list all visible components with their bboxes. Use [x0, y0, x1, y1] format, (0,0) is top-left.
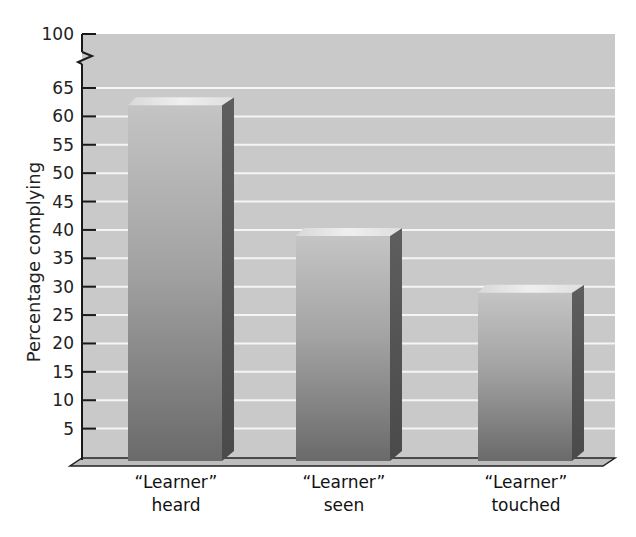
y-tick-label: 60: [52, 106, 74, 126]
x-label-seen-line2: seen: [324, 495, 365, 515]
y-tick-label: 20: [52, 333, 74, 353]
bar-chart: 5101520253035404550556065100 Percentage …: [0, 0, 636, 537]
y-tick-label: 15: [52, 362, 74, 382]
bar: [478, 285, 584, 461]
y-tick-label: 50: [52, 163, 74, 183]
bar: [128, 97, 234, 461]
x-label-heard-line2: heard: [151, 495, 200, 515]
y-tick-label: 100: [42, 24, 74, 44]
y-axis-label: Percentage complying: [23, 162, 44, 362]
x-label-seen-line1: “Learner”: [303, 472, 386, 492]
bar: [296, 228, 402, 461]
y-tick-label: 30: [52, 277, 74, 297]
x-label-touched-line1: “Learner”: [485, 472, 568, 492]
x-label-heard-line1: “Learner”: [135, 472, 218, 492]
y-tick-label: 25: [52, 305, 74, 325]
y-tick-label: 5: [63, 419, 74, 439]
y-tick-label: 55: [52, 135, 74, 155]
y-tick-label: 45: [52, 192, 74, 212]
y-tick-label: 65: [52, 78, 74, 98]
x-label-touched-line2: touched: [491, 495, 560, 515]
y-tick-label: 10: [52, 390, 74, 410]
x-axis-labels: “Learner” heard “Learner” seen “Learner”…: [135, 472, 568, 515]
y-tick-label: 35: [52, 248, 74, 268]
y-tick-label: 40: [52, 220, 74, 240]
